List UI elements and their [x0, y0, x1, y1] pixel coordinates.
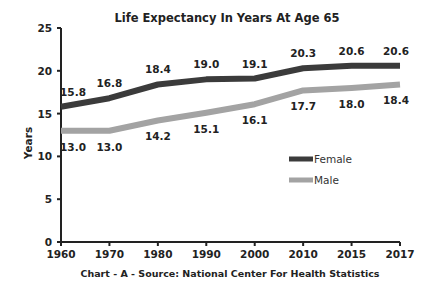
- data-label-male: 14.2: [145, 130, 171, 142]
- legend: FemaleMale: [289, 153, 352, 186]
- y-tick-label: 15: [37, 108, 52, 120]
- y-tick-label: 0: [45, 236, 52, 248]
- chart-title: Life Expectancy In Years At Age 65: [114, 11, 339, 25]
- data-label-male: 17.7: [290, 100, 316, 112]
- x-tick-label: 2010: [289, 248, 318, 260]
- axes: 0510152025196019701980199020002010201520…: [37, 22, 414, 260]
- data-label-female: 16.8: [96, 77, 122, 89]
- data-label-female: 20.6: [383, 45, 409, 57]
- x-tick-label: 1990: [192, 248, 221, 260]
- y-tick-label: 25: [37, 22, 52, 34]
- y-tick-label: 5: [45, 193, 52, 205]
- data-label-male: 15.1: [193, 123, 219, 135]
- data-label-female: 20.6: [339, 45, 365, 57]
- x-tick-label: 2017: [385, 248, 414, 260]
- data-label-male: 13.0: [96, 141, 122, 153]
- legend-label-male: Male: [314, 174, 339, 186]
- data-label-female: 19.0: [193, 58, 219, 70]
- data-label-female: 19.1: [242, 58, 268, 70]
- line-chart: Life Expectancy In Years At Age 65 Years…: [0, 0, 433, 295]
- data-label-male: 18.0: [339, 98, 365, 110]
- data-label-male: 13.0: [60, 141, 86, 153]
- x-tick-label: 1980: [143, 248, 172, 260]
- y-tick-label: 10: [37, 150, 52, 162]
- x-tick-label: 1970: [95, 248, 124, 260]
- data-label-female: 20.3: [290, 47, 316, 59]
- data-label-male: 18.4: [383, 94, 409, 106]
- data-label-male: 16.1: [242, 114, 268, 126]
- y-axis-label: Years: [22, 127, 34, 160]
- y-tick-label: 20: [37, 65, 52, 77]
- x-axis-label: Chart - A - Source: National Center For …: [80, 268, 379, 279]
- legend-label-female: Female: [314, 153, 352, 165]
- data-label-female: 18.4: [145, 63, 171, 75]
- x-tick-label: 1960: [46, 248, 75, 260]
- x-tick-label: 2015: [337, 248, 366, 260]
- x-tick-label: 2000: [240, 248, 269, 260]
- data-label-female: 15.8: [60, 86, 86, 98]
